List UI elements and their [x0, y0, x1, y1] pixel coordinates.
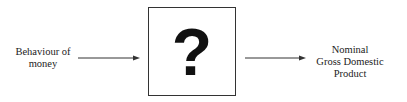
unknown-process-box: ? [148, 7, 236, 96]
input-label: Behaviour of money [6, 46, 80, 70]
input-label-line-2: money [6, 58, 80, 70]
output-label-line-2: Gross Domestic [300, 56, 400, 68]
arrow-input-to-box [78, 54, 140, 62]
output-label-line-3: Product [300, 68, 400, 80]
output-label-line-1: Nominal [300, 44, 400, 56]
arrow-box-to-output [245, 54, 307, 62]
question-mark-icon: ? [149, 8, 235, 95]
input-label-line-1: Behaviour of [6, 46, 80, 58]
output-label: Nominal Gross Domestic Product [300, 44, 400, 80]
